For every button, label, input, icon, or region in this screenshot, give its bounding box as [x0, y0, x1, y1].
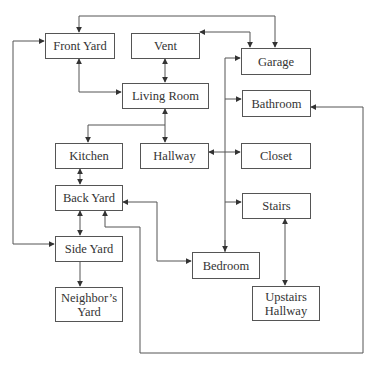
- node-label: Closet: [260, 149, 292, 163]
- node-hallway: Hallway: [140, 143, 209, 169]
- node-label: Stairs: [262, 199, 290, 213]
- node-label: Neighbor’s Yard: [61, 291, 117, 319]
- node-bedroom: Bedroom: [192, 252, 260, 279]
- node-kitchen: Kitchen: [55, 143, 123, 169]
- node-label: Bedroom: [203, 259, 250, 273]
- node-closet: Closet: [241, 143, 311, 169]
- node-garage: Garage: [241, 48, 311, 75]
- node-label: Vent: [154, 39, 177, 53]
- node-label: Hallway: [153, 149, 195, 163]
- node-living-room: Living Room: [122, 83, 209, 109]
- edge-back-yard-bedroom: [123, 202, 191, 261]
- node-label: Back Yard: [63, 191, 115, 205]
- node-neighbors-yard: Neighbor’s Yard: [55, 287, 123, 322]
- node-label: Upstairs Hallway: [263, 290, 309, 318]
- node-vent: Vent: [131, 33, 200, 59]
- edge-vent-garage: [200, 32, 250, 47]
- node-label: Living Room: [132, 89, 199, 103]
- edge-side-yard-front-yard: [13, 41, 54, 244]
- edge-front-yard-living-room: [79, 59, 121, 92]
- node-label: Front Yard: [53, 39, 107, 53]
- node-label: Kitchen: [69, 149, 109, 163]
- node-front-yard: Front Yard: [45, 33, 115, 59]
- node-back-yard: Back Yard: [55, 185, 123, 211]
- edge-trunk-garage: [225, 58, 240, 252]
- node-label: Side Yard: [65, 242, 114, 256]
- edge-living-room-kitchen: [88, 125, 165, 142]
- node-bathroom: Bathroom: [242, 90, 311, 117]
- node-stairs: Stairs: [242, 193, 311, 219]
- node-label: Garage: [258, 55, 294, 69]
- node-side-yard: Side Yard: [55, 236, 123, 262]
- node-label: Bathroom: [252, 97, 302, 111]
- node-upstairs-hallway: Upstairs Hallway: [252, 286, 320, 321]
